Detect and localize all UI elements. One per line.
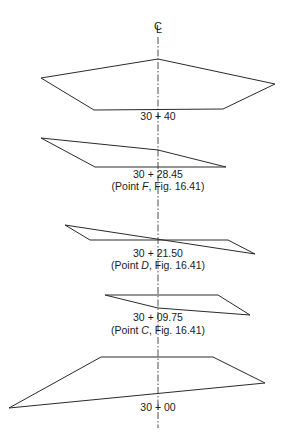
centerline-symbol: C L xyxy=(154,20,162,35)
point-reference-label: (Point C, Fig. 16.41) xyxy=(111,324,205,336)
centerline-l-glyph: L xyxy=(156,23,162,35)
point-reference-label: (Point F, Fig. 16.41) xyxy=(112,180,205,192)
station-label: 30 + 00 xyxy=(140,401,175,413)
station-label: 30 + 28.45 xyxy=(133,168,183,180)
station-label: 30 + 09.75 xyxy=(133,311,183,323)
station-label: 30 + 21.50 xyxy=(133,247,183,259)
section-30-09-75: 30 + 09.75 (Point C, Fig. 16.41) xyxy=(105,295,250,336)
section-outline xyxy=(41,138,226,167)
section-outline xyxy=(9,357,265,408)
section-30-28-45: 30 + 28.45 (Point F, Fig. 16.41) xyxy=(41,138,226,192)
cross-section-diagram: C L 30 + 40 30 + 28.45 (Point F, Fig. 16… xyxy=(0,0,285,442)
section-30-21-50: 30 + 21.50 (Point D, Fig. 16.41) xyxy=(65,225,255,271)
point-reference-label: (Point D, Fig. 16.41) xyxy=(111,259,205,271)
station-label: 30 + 40 xyxy=(140,110,175,122)
section-30-00: 30 + 00 xyxy=(9,357,265,413)
